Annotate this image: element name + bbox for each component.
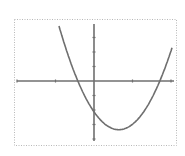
graph-screen bbox=[0, 0, 185, 156]
axes bbox=[17, 24, 174, 141]
function-curve bbox=[59, 26, 172, 130]
parabola-plot bbox=[0, 0, 185, 156]
plot-frame bbox=[15, 20, 177, 146]
